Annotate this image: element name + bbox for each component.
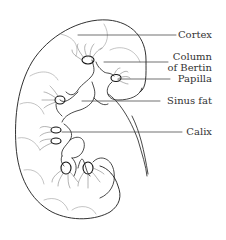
- label-column-of-bertin-line1: Column: [167, 51, 212, 62]
- lobe-arc: [24, 170, 44, 184]
- hilum-edge: [108, 94, 147, 176]
- label-calix: Calix: [186, 126, 212, 137]
- papilla-left-upper: [42, 86, 65, 108]
- lobe-arc: [60, 34, 77, 56]
- lobe-arc: [100, 24, 107, 50]
- label-column-of-bertin: Column of Bertin: [167, 51, 212, 73]
- label-cortex: Cortex: [178, 29, 212, 40]
- lobe-arc: [18, 138, 40, 150]
- lobe-arc: [44, 198, 68, 210]
- lobe-bottom: [93, 158, 114, 198]
- lobe-arc: [20, 102, 44, 114]
- lobe-arc: [72, 207, 96, 214]
- label-column-of-bertin-line2: of Bertin: [167, 62, 212, 73]
- kidney-outline: [16, 20, 147, 219]
- label-sinus-fat: Sinus fat: [167, 95, 212, 106]
- papilla-left-middle: [40, 127, 61, 151]
- lobe-arc: [110, 48, 140, 62]
- ureter-edge: [132, 116, 148, 174]
- label-papilla: Papilla: [178, 73, 212, 84]
- lobe-arc: [30, 72, 58, 80]
